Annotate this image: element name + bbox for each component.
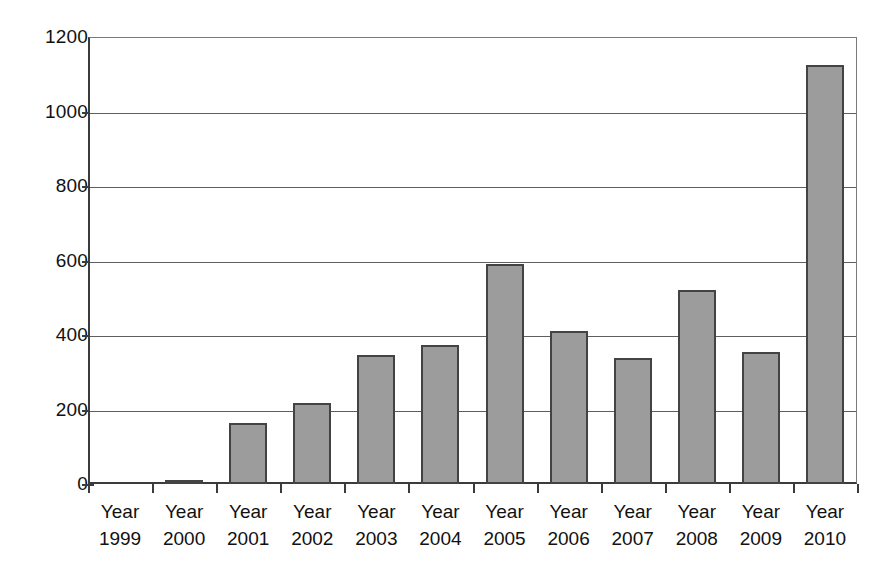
x-axis-label-2008: Year2008: [665, 498, 729, 552]
x-axis-tick-mark: [216, 484, 218, 493]
x-axis-tick-mark: [408, 484, 410, 493]
bar-2007[interactable]: [614, 358, 652, 484]
x-axis-label-2001: Year2001: [216, 498, 280, 552]
bar-2002[interactable]: [293, 403, 331, 484]
x-axis-label-line2: 2003: [344, 525, 408, 552]
x-axis-tick-mark: [601, 484, 603, 493]
x-axis-label-line1: Year: [793, 498, 857, 525]
x-axis-tick-mark: [152, 484, 154, 493]
x-axis-label-line2: 2001: [216, 525, 280, 552]
x-axis-label-line2: 2002: [280, 525, 344, 552]
bar-2003[interactable]: [357, 355, 395, 484]
x-axis-label-line1: Year: [601, 498, 665, 525]
x-axis-label-2002: Year2002: [280, 498, 344, 552]
x-axis-label-2003: Year2003: [344, 498, 408, 552]
y-axis-tick-label: 400: [26, 325, 88, 344]
x-axis-label-line2: 2006: [537, 525, 601, 552]
x-axis-label-line2: 2008: [665, 525, 729, 552]
bar-slot: [216, 37, 280, 484]
x-axis-tick-mark: [665, 484, 667, 493]
bar-2004[interactable]: [421, 345, 459, 484]
bar-2010[interactable]: [806, 65, 844, 484]
x-axis-tick-mark: [537, 484, 539, 493]
bar-slot: [601, 37, 665, 484]
x-axis-label-2006: Year2006: [537, 498, 601, 552]
x-axis-tick-mark: [473, 484, 475, 493]
bar-slot: [473, 37, 537, 484]
x-axis-label-line1: Year: [152, 498, 216, 525]
y-axis-tick-label: 0: [26, 474, 88, 493]
x-axis-label-line1: Year: [537, 498, 601, 525]
bar-2008[interactable]: [678, 290, 716, 484]
x-axis-labels: Year1999Year2000Year2001Year2002Year2003…: [88, 498, 857, 568]
bar-2006[interactable]: [550, 331, 588, 484]
x-axis-label-line1: Year: [216, 498, 280, 525]
y-axis-tick-label: 1000: [26, 102, 88, 121]
bars-layer: [88, 37, 857, 484]
y-axis-tick-label: 800: [26, 176, 88, 195]
y-axis-tick-label: 200: [26, 400, 88, 419]
bar-slot: [344, 37, 408, 484]
bar-slot: [280, 37, 344, 484]
x-axis-label-2007: Year2007: [601, 498, 665, 552]
x-axis-label-line1: Year: [280, 498, 344, 525]
bar-slot: [408, 37, 472, 484]
x-axis-label-line1: Year: [473, 498, 537, 525]
x-axis-tick-mark: [280, 484, 282, 493]
x-axis-label-2009: Year2009: [729, 498, 793, 552]
bar-chart: 020040060080010001200 Year1999Year2000Ye…: [0, 0, 886, 580]
x-axis-tick-mark: [88, 484, 90, 493]
x-axis-tick-mark: [793, 484, 795, 493]
x-axis-tick-mark: [729, 484, 731, 493]
x-axis-label-line2: 2007: [601, 525, 665, 552]
x-axis-label-line1: Year: [665, 498, 729, 525]
y-axis-tick-label: 1200: [26, 27, 88, 46]
x-axis-label-line2: 1999: [88, 525, 152, 552]
x-axis-label-2004: Year2004: [408, 498, 472, 552]
bar-2005[interactable]: [486, 264, 524, 484]
bar-slot: [88, 37, 152, 484]
x-axis-label-line2: 2004: [408, 525, 472, 552]
x-axis-label-2000: Year2000: [152, 498, 216, 552]
x-axis-label-2005: Year2005: [473, 498, 537, 552]
bar-slot: [729, 37, 793, 484]
x-axis-label-line2: 2010: [793, 525, 857, 552]
x-axis-label-line2: 2000: [152, 525, 216, 552]
bar-2001[interactable]: [229, 423, 267, 484]
x-axis-label-line2: 2009: [729, 525, 793, 552]
x-axis-label-line1: Year: [729, 498, 793, 525]
x-axis-label-line1: Year: [88, 498, 152, 525]
x-axis-label-line1: Year: [408, 498, 472, 525]
x-axis-label-line1: Year: [344, 498, 408, 525]
x-axis-tick-mark: [344, 484, 346, 493]
x-axis-label-2010: Year2010: [793, 498, 857, 552]
x-axis-label-1999: Year1999: [88, 498, 152, 552]
bar-2009[interactable]: [742, 352, 780, 484]
x-axis-label-line2: 2005: [473, 525, 537, 552]
bar-slot: [152, 37, 216, 484]
bar-slot: [665, 37, 729, 484]
bar-slot: [793, 37, 857, 484]
x-axis-tick-mark: [857, 484, 859, 493]
bar-slot: [537, 37, 601, 484]
bar-2000[interactable]: [165, 480, 203, 484]
y-axis-tick-label: 600: [26, 251, 88, 270]
